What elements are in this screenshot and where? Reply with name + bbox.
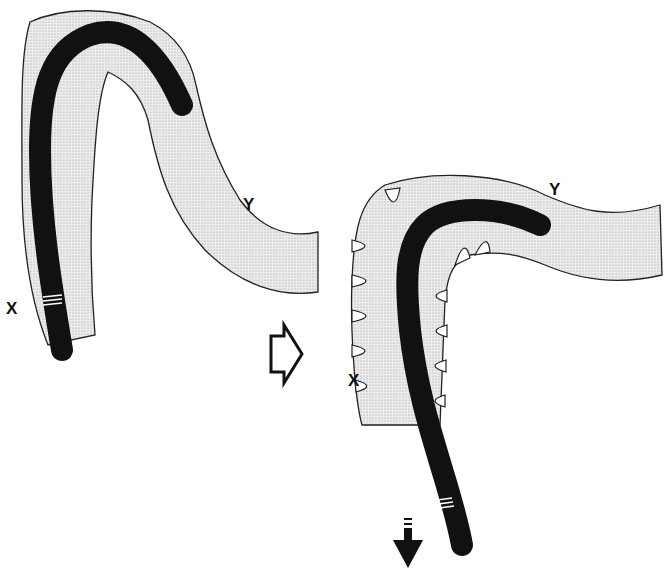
- diagram-canvas: X Y X Y: [0, 0, 666, 579]
- down-arrow-icon: [393, 518, 423, 568]
- label-y-before: Y: [243, 196, 254, 213]
- diagram-svg: [0, 0, 666, 579]
- open-right-arrow-icon: [271, 325, 302, 383]
- label-x-before: X: [6, 300, 17, 317]
- label-y-after: Y: [549, 181, 560, 198]
- label-x-after: X: [348, 372, 359, 389]
